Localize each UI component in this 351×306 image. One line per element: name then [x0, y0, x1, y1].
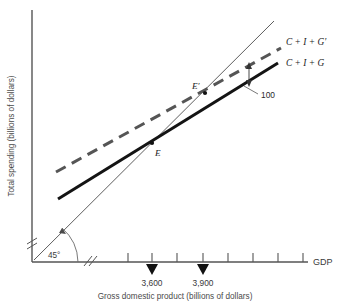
- curve-label-shifted: C + I + G′: [286, 37, 327, 47]
- x-axis-ticks: [128, 253, 303, 262]
- x-axis-name: GDP: [313, 257, 333, 267]
- equilibrium-dot-E: [150, 141, 154, 145]
- spending-line-original: [58, 63, 278, 199]
- gdp-marker-3900: [197, 264, 209, 275]
- curve-label-original: C + I + G: [286, 58, 324, 68]
- shift-amount-label: 100: [261, 90, 275, 100]
- x-axis-title: Gross domestic product (billions of doll…: [98, 292, 253, 301]
- shift-leader-line: [244, 86, 258, 94]
- point-label-E-prime: E′: [191, 81, 201, 91]
- point-label-E: E: [154, 148, 161, 158]
- equilibrium-dot-E-prime: [203, 91, 207, 95]
- angle-label: 45°: [48, 251, 60, 260]
- x-tick-label-3600: 3,600: [142, 278, 163, 288]
- y-axis-title: Total spending (billions of dollars): [7, 75, 16, 196]
- x-axis-break-marks: [84, 256, 97, 266]
- gdp-marker-3600: [146, 264, 158, 275]
- keynesian-cross-svg: E E′ C + I + G′ C + I + G 100 45° 3,600 …: [0, 0, 351, 306]
- chart-figure: E E′ C + I + G′ C + I + G 100 45° 3,600 …: [0, 0, 351, 306]
- x-tick-label-3900: 3,900: [193, 278, 214, 288]
